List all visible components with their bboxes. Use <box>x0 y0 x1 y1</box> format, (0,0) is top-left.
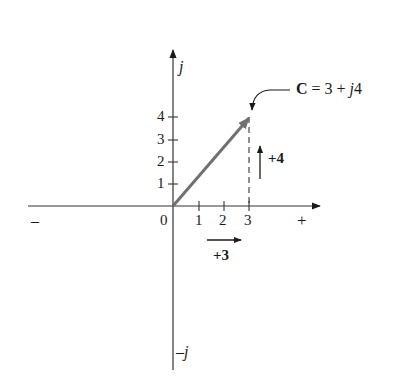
imag-tick-label-3: 3 <box>157 132 165 147</box>
imaginary-positive-label: j <box>179 59 183 75</box>
real-tick-label-2: 2 <box>219 213 227 228</box>
phasor-equals: = 3 + <box>308 80 350 97</box>
imaginary-negative-label: –j <box>176 344 188 360</box>
imag-tick-label-4: 4 <box>157 109 165 124</box>
phasor-name: C <box>296 80 308 97</box>
phasor-annotation: C = 3 + j4 <box>296 81 362 97</box>
annotation-pointer-arrow <box>252 90 290 110</box>
real-tick-label-3: 3 <box>244 213 252 228</box>
real-negative-label: – <box>31 213 39 229</box>
phasor-imag-value: 4 <box>354 80 362 97</box>
imag-tick-label-1: 1 <box>157 176 165 191</box>
imag-tick-label-2: 2 <box>157 154 165 169</box>
real-tick-label-1: 1 <box>195 213 203 228</box>
real-component-label: +3 <box>213 248 229 263</box>
real-positive-label: + <box>297 212 307 229</box>
origin-label: 0 <box>160 213 168 228</box>
complex-plane-diagram <box>0 0 405 381</box>
minus-sign: – <box>176 343 184 360</box>
j-symbol: j <box>184 343 188 360</box>
imaginary-component-label: +4 <box>268 151 284 166</box>
phasor-vector-arrow <box>173 118 249 206</box>
